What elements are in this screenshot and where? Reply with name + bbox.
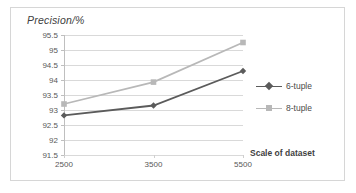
- y-axis-tick-label: 95: [49, 46, 58, 55]
- y-axis-tick-label: 91.5: [42, 151, 58, 160]
- data-point-diamond: [61, 112, 67, 118]
- chart-title: Precision/%: [27, 14, 85, 26]
- x-axis-tick: [64, 155, 65, 158]
- y-axis-tick-label: 93: [49, 106, 58, 115]
- chart-container: Precision/% 91.59292.59393.59494.59595.5…: [10, 7, 345, 181]
- data-point-square: [240, 40, 246, 46]
- data-point-square: [151, 79, 157, 85]
- data-point-square: [61, 101, 67, 107]
- legend-item-8-tuple: 8-tuple: [256, 97, 342, 119]
- legend-item-6-tuple: 6-tuple: [256, 75, 342, 97]
- x-axis-title: Scale of dataset: [250, 148, 315, 158]
- series-plot: [64, 35, 243, 155]
- x-axis-tick: [154, 155, 155, 158]
- series-line-8-tuple: [64, 43, 243, 105]
- plot-area: 91.59292.59393.59494.59595.5 25003500550…: [64, 35, 243, 155]
- legend-swatch-6-tuple: [256, 81, 282, 91]
- y-axis-tick-label: 94.5: [42, 61, 58, 70]
- series-line-6-tuple: [64, 71, 243, 115]
- data-point-diamond: [240, 68, 246, 74]
- data-point-diamond: [150, 102, 156, 108]
- y-axis-tick-label: 94: [49, 76, 58, 85]
- y-axis-tick-label: 92.5: [42, 121, 58, 130]
- square-marker-icon: [266, 105, 272, 111]
- y-axis-tick-label: 92: [49, 136, 58, 145]
- legend-swatch-8-tuple: [256, 103, 282, 113]
- y-axis-tick-label: 95.5: [42, 31, 58, 40]
- chart-legend: 6-tuple 8-tuple: [256, 75, 342, 119]
- legend-label-6-tuple: 6-tuple: [286, 81, 312, 91]
- legend-label-8-tuple: 8-tuple: [286, 103, 312, 113]
- x-axis-tick: [243, 155, 244, 158]
- x-axis-tick-label: 2500: [55, 160, 73, 169]
- x-axis-tick-label: 3500: [145, 160, 163, 169]
- diamond-marker-icon: [265, 82, 273, 90]
- x-axis-tick-label: 5500: [234, 160, 252, 169]
- y-axis-tick-label: 93.5: [42, 91, 58, 100]
